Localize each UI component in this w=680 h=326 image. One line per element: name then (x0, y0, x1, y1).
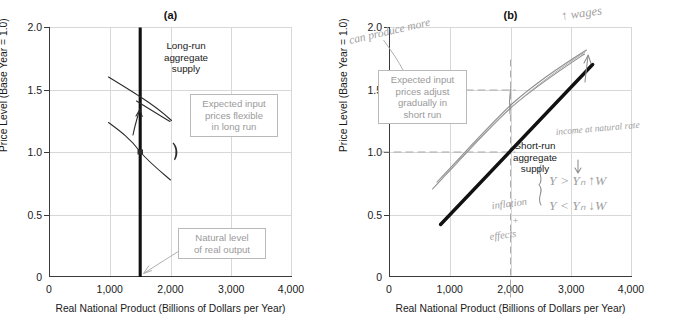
panel-a-callout-expected-l1: Expected input (196, 98, 272, 110)
panel-b-xlabel-0: 0 (386, 284, 392, 295)
panel-a-gridline-y-2.0 (49, 27, 292, 28)
panel-a-lras-label-line3: supply (143, 63, 229, 75)
panel-a-xlabel-3000: 3,000 (218, 284, 244, 295)
panel-b-ylabel-0.5: 0.5 (367, 209, 382, 220)
panel-b-x-axis-title: Real National Product (Billions of Dolla… (389, 303, 632, 314)
panel-b-gridline-y-0.5 (389, 215, 632, 216)
panel-a-xlabel-2000: 2,000 (157, 284, 183, 295)
panel-b-ylabel-1.0: 1.0 (367, 147, 382, 158)
panel-a-y-axis-title: Price Level (Base Year = 1.0) (0, 18, 9, 152)
panel-a-gridline-y-1.5 (49, 90, 292, 91)
panel-a-callout-natural-l2: of real output (184, 244, 260, 256)
panel-b-ytick-2.0 (384, 27, 389, 28)
panel-a-ytick-1.5 (44, 90, 49, 91)
panel-a-ylabel-1.0: 1.0 (27, 147, 42, 158)
panel-a-ylabel-0: 0 (36, 272, 42, 283)
panel-a-xlabel-1000: 1,000 (97, 284, 123, 295)
panel-b-sras-label-line3: supply (492, 163, 578, 175)
panel-a-lras-label-line2: aggregate (143, 52, 229, 64)
panel-a-ylabel-0.5: 0.5 (27, 209, 42, 220)
panel-b-xlabel-3000: 3,000 (558, 284, 584, 295)
panel-b-ylabel-2.0: 2.0 (367, 22, 382, 33)
panel-b-callout-expected-l4: short run (384, 109, 461, 121)
panel-a-x-axis-title: Real National Product (Billions of Dolla… (49, 303, 292, 314)
panel-b-ytick-1.0 (384, 152, 389, 153)
panel-a-y-axis (49, 27, 50, 277)
panel-b-gridline-y-2.0 (389, 27, 632, 28)
panel-a-ylabel-2.0: 2.0 (27, 22, 42, 33)
panel-a-x-axis (49, 276, 292, 277)
panel-a-lras-label-line1: Long-run (143, 40, 229, 52)
panel-a-ytick-1.0 (44, 152, 49, 153)
panel-a-xlabel-4000: 4,000 (278, 284, 304, 295)
panel-b-xlabel-2000: 2,000 (497, 284, 523, 295)
panel-b-y-axis (389, 27, 390, 277)
panel-b-callout-expected-l1: Expected input (384, 74, 461, 86)
panel-a-gridline-y-0.5 (49, 215, 292, 216)
panel-a-callout-natural-level: Natural level of real output (178, 228, 266, 259)
panel-a-ylabel-1.5: 1.5 (27, 84, 42, 95)
panel-b-y-axis-title: Price Level (Base Year = 1.0) (338, 18, 349, 152)
panel-a-callout-expected-input-prices: Expected input prices flexible in long r… (190, 94, 278, 137)
panel-a-ytick-0.5 (44, 215, 49, 216)
panel-b-xlabel-4000: 4,000 (618, 284, 644, 295)
panel-b-ytick-0.5 (384, 215, 389, 216)
panel-b-tag: (b) (389, 9, 632, 21)
panel-a-callout-expected-l3: in long run (196, 121, 272, 133)
panel-b-xlabel-1000: 1,000 (437, 284, 463, 295)
panel-a-callout-expected-l2: prices flexible (196, 110, 272, 122)
panel-a-ytick-2.0 (44, 27, 49, 28)
panel-a: (a) Price Level (Base Year = 1.0) Real N… (0, 0, 340, 326)
panel-a-lras-label: Long-run aggregate supply (143, 40, 229, 75)
panel-b-sras-label-line1: Short-run (492, 140, 578, 152)
panel-b-callout-expected-input-prices: Expected input prices adjust gradually i… (378, 70, 467, 124)
panel-b-callout-expected-l2: prices adjust (384, 86, 461, 98)
panel-b-ylabel-0: 0 (376, 272, 382, 283)
panel-a-xlabel-0: 0 (46, 284, 52, 295)
panel-a-gridline-y-1.0 (49, 152, 292, 153)
panel-b-x-axis (389, 276, 632, 277)
panel-a-tag: (a) (49, 9, 292, 21)
panel-b-callout-expected-l3: gradually in (384, 97, 461, 109)
panel-b: (b) Price Level (Base Year = 1.0) Real N… (340, 0, 680, 326)
panel-b-sras-label: Short-run aggregate supply (492, 140, 578, 175)
panel-a-callout-natural-l1: Natural level (184, 232, 260, 244)
panel-b-sras-label-line2: aggregate (492, 152, 578, 164)
